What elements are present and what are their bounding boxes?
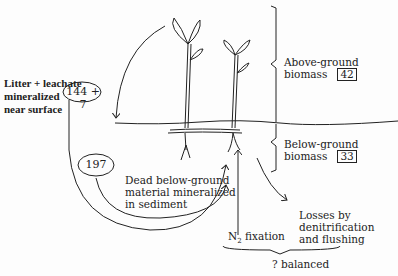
above-ground-label: Above-ground biomass42 (284, 56, 359, 81)
below-ground-label-line1: Below-ground (284, 138, 358, 150)
losses-label-line3: and flushing (299, 233, 374, 245)
rhizome (168, 129, 242, 133)
below-ground-label: Below-ground biomass33 (284, 138, 358, 163)
ground-surface-line (115, 121, 398, 125)
dead-below-label-line2: material mineralized (125, 186, 236, 198)
below-ground-biomass-word: biomass (284, 150, 327, 162)
below-ground-value-box: 33 (337, 150, 356, 163)
dead-below-label: Dead below-ground material mineralized i… (125, 174, 236, 210)
balance-note: ? balanced (272, 258, 329, 270)
losses-label: Losses by denitrification and flushing (299, 209, 374, 245)
above-ground-label-line1: Above-ground (284, 56, 359, 68)
losses-label-line2: denitrification (299, 221, 374, 233)
nitrogen-cycle-diagram: Above-ground biomass42 Below-ground biom… (0, 0, 398, 276)
below-ground-bracket (271, 124, 276, 172)
plant-2-leaf-left (224, 40, 235, 55)
dead-below-label-line3: in sediment (125, 198, 236, 210)
above-ground-value-box: 42 (337, 68, 356, 81)
plant-1-leaf-side (190, 49, 203, 60)
n2-fixation-label: N2 fixation (228, 230, 285, 247)
above-ground-label-line2: biomass42 (284, 68, 359, 81)
dead-below-value: 197 (84, 158, 108, 171)
plant-2-leaf-side (237, 63, 249, 73)
root-2 (228, 133, 240, 152)
dead-below-label-line1: Dead below-ground (125, 174, 236, 186)
plant-2-stem (232, 55, 238, 128)
above-ground-bracket (271, 6, 276, 122)
losses-label-line1: Losses by (299, 209, 374, 221)
litter-value: 144 + 7 (66, 85, 100, 111)
root-1 (181, 133, 190, 160)
senescence-arrow (116, 26, 165, 118)
plant-1-leaf-left (173, 18, 188, 44)
n2-prefix: N (228, 230, 237, 242)
n2-suffix: fixation (242, 230, 285, 242)
above-ground-biomass-word: biomass (284, 68, 327, 80)
plant-2-leaf-right (235, 40, 250, 55)
losses-arrow (257, 158, 287, 200)
balance-brace (223, 246, 340, 254)
plant-1-leaf-right (188, 20, 200, 44)
below-ground-label-line2: biomass33 (284, 150, 358, 163)
plant-1-stem (185, 44, 191, 128)
